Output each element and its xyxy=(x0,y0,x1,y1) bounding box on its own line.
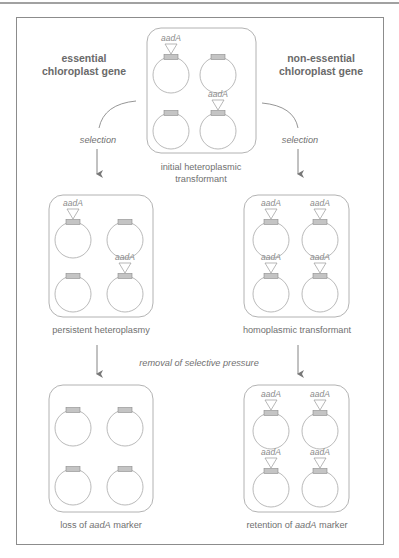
genome-with-aadA: aadA xyxy=(302,198,338,258)
panel-loss-of-marker xyxy=(49,385,153,512)
genome-wild-type xyxy=(55,408,91,447)
genome-wild-type xyxy=(55,274,91,313)
svg-text:aadA: aadA xyxy=(63,198,83,208)
genome-with-aadA: aadA xyxy=(302,389,338,449)
caption-persistent-heteroplasmy: persistent heteroplasmy xyxy=(52,325,150,335)
caption-homoplasmic-transformant: homoplasmic transformant xyxy=(243,325,352,335)
panel-retention-of-marker: aadA aadA aadA aadA xyxy=(244,385,349,512)
genome-with-aadA: aadA xyxy=(153,33,189,93)
svg-text:aadA: aadA xyxy=(310,389,330,399)
caption-retention-of-marker: retention of aadA marker xyxy=(246,520,347,530)
caption-initial: initial heteroplasmic transformant xyxy=(161,162,242,184)
genome-with-aadA: aadA xyxy=(302,447,338,507)
svg-text:aadA: aadA xyxy=(161,33,181,43)
genome-wild-type xyxy=(200,55,236,94)
outer-frame xyxy=(17,18,384,545)
genome-with-aadA: aadA xyxy=(253,252,289,312)
svg-text:selection: selection xyxy=(80,135,116,145)
genome-with-aadA: aadA xyxy=(253,447,289,507)
genome-with-aadA: aadA xyxy=(200,89,236,149)
left-column-title: essential chloroplast gene xyxy=(42,52,126,77)
removal-arrows: removal of selective pressure xyxy=(97,345,298,374)
svg-text:transformant: transformant xyxy=(175,174,227,184)
left-selection-arrow: selection xyxy=(80,101,136,174)
svg-text:essential: essential xyxy=(62,52,107,64)
genome-with-aadA: aadA xyxy=(107,252,143,312)
svg-text:chloroplast gene: chloroplast gene xyxy=(279,65,363,77)
svg-text:aadA: aadA xyxy=(261,447,281,457)
panel-persistent-heteroplasmy: aadA aadA xyxy=(49,195,153,317)
right-selection-arrow: selection xyxy=(262,103,318,174)
svg-text:aadA: aadA xyxy=(261,389,281,399)
svg-text:removal of selective pressure: removal of selective pressure xyxy=(139,358,259,368)
panel-initial-heteroplasmic: aadA aadA xyxy=(147,28,256,153)
svg-text:non-essential: non-essential xyxy=(287,52,355,64)
svg-text:aadA: aadA xyxy=(310,252,330,262)
svg-text:selection: selection xyxy=(282,135,318,145)
panel-homoplasmic-transformant: aadA aadA aadA aadA xyxy=(244,195,349,317)
svg-text:chloroplast gene: chloroplast gene xyxy=(42,65,126,77)
svg-text:aadA: aadA xyxy=(310,198,330,208)
right-column-title: non-essential chloroplast gene xyxy=(279,52,363,77)
svg-text:aadA: aadA xyxy=(115,252,135,262)
svg-text:aadA: aadA xyxy=(261,198,281,208)
svg-text:aadA: aadA xyxy=(261,252,281,262)
genome-wild-type xyxy=(107,408,143,447)
svg-text:aadA: aadA xyxy=(310,447,330,457)
chloroplast-transformation-diagram: essential chloroplast gene non-essential… xyxy=(0,0,399,558)
svg-text:initial heteroplasmic: initial heteroplasmic xyxy=(161,162,242,172)
genome-with-aadA: aadA xyxy=(302,252,338,312)
svg-text:aadA: aadA xyxy=(208,89,228,99)
genome-wild-type xyxy=(153,111,189,150)
caption-loss-of-marker: loss of aadA marker xyxy=(60,520,142,530)
genome-wild-type xyxy=(55,467,91,506)
genome-wild-type xyxy=(107,467,143,506)
genome-with-aadA: aadA xyxy=(253,389,289,449)
genome-with-aadA: aadA xyxy=(253,198,289,258)
genome-with-aadA: aadA xyxy=(55,198,91,258)
